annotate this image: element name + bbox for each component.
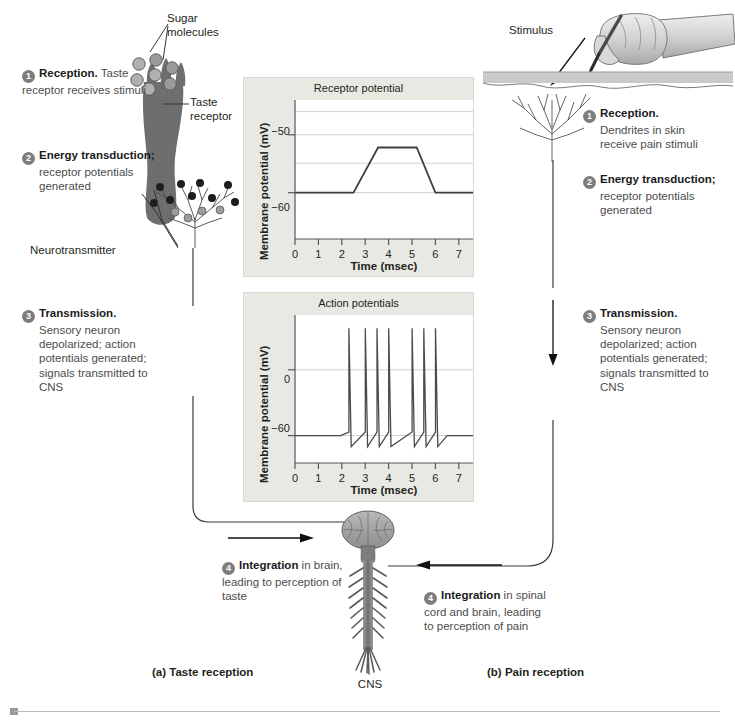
step-taste-4-number: 4 (222, 562, 235, 575)
receptor-potential-xtick-5: 5 (404, 248, 420, 260)
step-pain-2-number: 2 (583, 176, 596, 189)
footer-rule (14, 711, 720, 712)
action-potentials-xtick-2: 2 (334, 472, 350, 484)
receptor-potential-xtick-0: 0 (287, 248, 303, 260)
pain-axon-arrow (546, 300, 560, 368)
action-potentials-xtick-3: 3 (357, 472, 373, 484)
receptor-potential-xtick-2: 2 (334, 248, 350, 260)
action-potentials-ytick-0: 0 (268, 373, 290, 385)
panel-b-caption: (b) Pain reception (487, 666, 584, 678)
step-taste-3-title: Transmission. (39, 307, 116, 319)
receptor-potential-xtick-6: 6 (427, 248, 443, 260)
receptor-potential-xtick-3: 3 (357, 248, 373, 260)
taste-receptor-line1: Taste (190, 96, 218, 108)
receptor-potential-axes (288, 100, 480, 252)
taste-receptor-leader-line (163, 101, 191, 107)
receptor-potential-xlabel: Time (msec) (295, 260, 473, 272)
neurotransmitter-label: Neurotransmitter (30, 244, 116, 258)
step-pain-1-text: Dendrites in skin receive pain stimuli (583, 123, 723, 151)
taste-receptor-line2: receptor (190, 110, 232, 122)
step-taste-3-text: Sensory neuron depolarized; action poten… (22, 323, 162, 394)
pain-axon-line (548, 160, 558, 290)
step-pain-3-text: Sensory neuron depolarized; action poten… (583, 323, 715, 394)
step-taste-4-title: Integration (239, 559, 298, 571)
cns-label: CNS (350, 678, 390, 692)
step-pain-3-number: 3 (583, 310, 596, 323)
action-potentials-xtick-0: 0 (287, 472, 303, 484)
step-pain-4: 4Integration in spinal cord and brain, l… (424, 588, 552, 633)
step-taste-2-title: Energy transduction; (39, 149, 155, 161)
taste-direction-arrow (228, 531, 318, 545)
receptor-potential-xtick-7: 7 (451, 248, 467, 260)
receptor-potential-ytick--50: −50 (268, 125, 290, 137)
step-pain-4-title: Integration (441, 589, 500, 601)
step-taste-3: 3Transmission. Sensory neuron depolarize… (22, 306, 162, 394)
step-pain-4-number: 4 (424, 592, 437, 605)
neurotransmitter-leader-lines (120, 186, 182, 248)
step-pain-2-title: Energy transduction; (600, 173, 716, 185)
step-taste-2-text: receptor potentials generated (22, 165, 157, 193)
action-potentials-xtick-1: 1 (310, 472, 326, 484)
action-potentials-ylabel: Membrane potential (mV) (258, 346, 270, 483)
step-pain-1-title: Reception. (600, 107, 659, 119)
receptor-potential-xtick-4: 4 (381, 248, 397, 260)
receptor-potential-ylabel: Membrane potential (mV) (258, 123, 270, 260)
step-taste-1-number: 1 (22, 70, 35, 83)
step-pain-2: 2Energy transduction; receptor potential… (583, 172, 723, 217)
panel-a-caption: (a) Taste reception (152, 666, 253, 678)
taste-receptor-label: Taste receptor (190, 96, 250, 123)
taste-axon-line (188, 248, 198, 308)
step-taste-2: 2Energy transduction; receptor potential… (22, 148, 157, 193)
step-pain-1: 1Reception. Dendrites in skin receive pa… (583, 106, 723, 151)
step-pain-3: 3Transmission. Sensory neuron depolarize… (583, 306, 715, 394)
step-pain-1-number: 1 (583, 110, 596, 123)
receptor-potential-title: Receptor potential (244, 82, 473, 94)
step-pain-2-text: receptor potentials generated (583, 189, 723, 217)
cns-illustration (336, 510, 400, 675)
receptor-potential-panel: Receptor potential Membrane potential (m… (243, 77, 474, 277)
action-potentials-ytick--60: −60 (264, 422, 290, 434)
receptor-potential-xtick-1: 1 (310, 248, 326, 260)
step-pain-3-title: Transmission. (600, 307, 677, 319)
pain-pathway-to-cns (380, 420, 570, 580)
step-taste-1-title: Reception. (39, 67, 98, 79)
receptor-potential-ytick--60: −60 (268, 201, 290, 213)
pain-direction-arrow (412, 558, 504, 572)
step-taste-3-number: 3 (22, 310, 35, 323)
action-potentials-title: Action potentials (244, 297, 473, 309)
step-taste-4: 4Integration in brain, leading to percep… (222, 558, 348, 603)
step-taste-1: 1Reception. Taste receptor receives stim… (22, 66, 150, 97)
step-taste-2-number: 2 (22, 152, 35, 165)
